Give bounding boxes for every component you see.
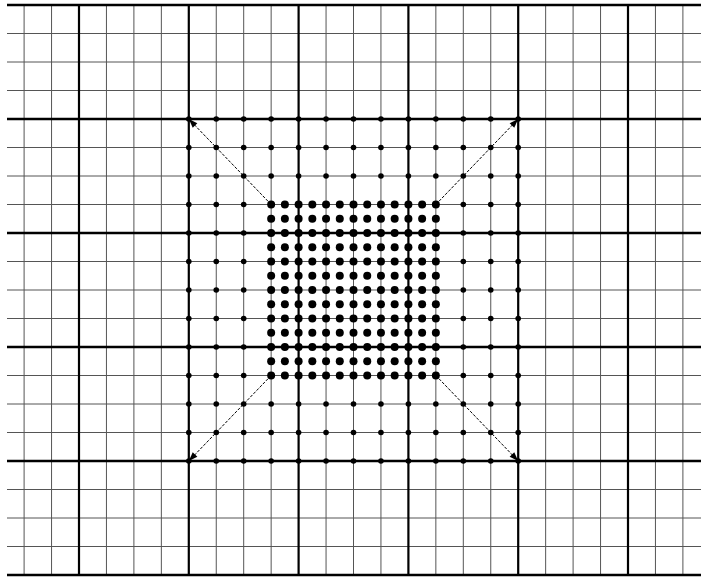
outer-sample-dot — [461, 373, 467, 379]
outer-sample-dot — [213, 316, 219, 322]
inner-sample-dot — [350, 343, 358, 351]
inner-sample-dot — [363, 372, 371, 380]
inner-sample-dot — [391, 286, 399, 294]
inner-sample-dot — [308, 329, 316, 337]
inner-sample-dot — [281, 300, 289, 308]
outer-sample-dot — [241, 458, 247, 464]
inner-sample-dot — [281, 272, 289, 280]
outer-sample-dot — [186, 145, 192, 151]
outer-sample-dot — [488, 202, 494, 208]
outer-sample-dot — [515, 173, 521, 179]
outer-sample-dot — [241, 230, 247, 236]
inner-sample-dot — [418, 357, 426, 365]
inner-sample-dot — [432, 300, 440, 308]
inner-sample-dot — [308, 243, 316, 251]
inner-sample-dot — [267, 315, 275, 323]
inner-sample-dot — [432, 229, 440, 237]
inner-sample-dot — [377, 229, 385, 237]
outer-sample-dot — [378, 458, 384, 464]
inner-sample-dot — [295, 286, 303, 294]
inner-sample-dot — [432, 286, 440, 294]
outer-sample-dot — [241, 259, 247, 265]
outer-sample-dot — [488, 401, 494, 407]
inner-sample-dot — [322, 286, 330, 294]
inner-sample-dot — [404, 272, 412, 280]
outer-sample-dot — [213, 287, 219, 293]
arrow-shaft — [189, 119, 271, 205]
grid-diagram — [0, 0, 707, 578]
inner-sample-dot — [308, 215, 316, 223]
inner-sample-dot — [391, 229, 399, 237]
outer-sample-dot — [406, 458, 412, 464]
inner-sample-dot — [418, 229, 426, 237]
outer-sample-dot — [186, 202, 192, 208]
outer-sample-dot — [296, 401, 302, 407]
inner-sample-dot — [295, 343, 303, 351]
inner-sample-dot — [377, 201, 385, 209]
outer-sample-dot — [461, 287, 467, 293]
outer-sample-dot — [351, 458, 357, 464]
outer-sample-dot — [378, 401, 384, 407]
inner-sample-dot — [350, 329, 358, 337]
inner-sample-dot — [281, 372, 289, 380]
inner-sample-dot — [336, 343, 344, 351]
inner-sample-dot — [350, 372, 358, 380]
inner-sample-dot — [404, 300, 412, 308]
inner-sample-dot — [418, 372, 426, 380]
inner-sample-dot — [336, 201, 344, 209]
inner-sample-dot — [322, 315, 330, 323]
inner-sample-dot — [267, 201, 275, 209]
inner-sample-dot — [350, 357, 358, 365]
inner-sample-dot — [336, 215, 344, 223]
outer-sample-dot — [268, 401, 274, 407]
outer-sample-dot — [461, 145, 467, 151]
inner-sample-dot — [377, 300, 385, 308]
inner-sample-dot — [281, 357, 289, 365]
outer-sample-dot — [488, 344, 494, 350]
inner-sample-dot — [308, 357, 316, 365]
inner-sample-dot — [418, 243, 426, 251]
outer-sample-dot — [186, 230, 192, 236]
inner-sample-dot — [267, 286, 275, 294]
outer-sample-dot — [406, 401, 412, 407]
outer-sample-dot — [241, 173, 247, 179]
outer-sample-dot — [213, 145, 219, 151]
inner-sample-dot — [363, 201, 371, 209]
outer-sample-dot — [378, 145, 384, 151]
outer-sample-dot — [515, 202, 521, 208]
outer-sample-dot — [296, 116, 302, 122]
inner-sample-dot — [295, 329, 303, 337]
outer-sample-dot — [515, 344, 521, 350]
outer-sample-dot — [515, 259, 521, 265]
inner-sample-dot — [267, 329, 275, 337]
inner-sample-dot — [336, 258, 344, 266]
outer-sample-dot — [241, 145, 247, 151]
inner-sample-dot — [281, 343, 289, 351]
outer-sample-dot — [461, 430, 467, 436]
outer-sample-dot — [515, 116, 521, 122]
inner-sample-dot — [295, 315, 303, 323]
inner-sample-dot — [377, 329, 385, 337]
outer-sample-dot — [213, 202, 219, 208]
outer-sample-dot — [296, 458, 302, 464]
inner-sample-dot — [295, 272, 303, 280]
inner-sample-dot — [391, 357, 399, 365]
arrow-bottom-left — [189, 376, 271, 462]
inner-sample-dot — [322, 272, 330, 280]
inner-sample-dot — [322, 201, 330, 209]
inner-sample-dot — [363, 243, 371, 251]
inner-sample-dot — [267, 272, 275, 280]
inner-sample-dot — [418, 329, 426, 337]
outer-sample-dot — [433, 401, 439, 407]
outer-sample-dot — [488, 287, 494, 293]
outer-sample-dot — [186, 287, 192, 293]
inner-sample-dot — [377, 372, 385, 380]
inner-sample-dot — [336, 286, 344, 294]
outer-sample-dot — [433, 116, 439, 122]
inner-sample-dot — [295, 300, 303, 308]
outer-sample-dot — [268, 145, 274, 151]
inner-sample-dot — [363, 258, 371, 266]
outer-sample-dot — [213, 458, 219, 464]
outer-sample-dot — [461, 344, 467, 350]
inner-sample-dot — [308, 300, 316, 308]
